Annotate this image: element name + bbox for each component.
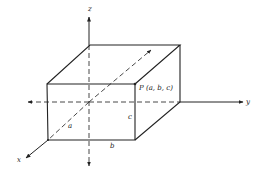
box-diagram: z y x P (a, b, c) a b c <box>0 0 264 181</box>
z-axis-label: z <box>88 6 92 13</box>
rectangular-box <box>47 45 180 140</box>
x-axis <box>26 50 151 158</box>
x-axis-label: x <box>17 157 21 164</box>
dimension-c-label: c <box>128 114 132 121</box>
dimension-a-label: a <box>68 123 72 130</box>
diagram-drawing <box>0 0 264 181</box>
point-p-marker <box>134 83 137 86</box>
corner-marker <box>47 139 49 141</box>
dimension-b-label: b <box>110 143 114 150</box>
point-p-label: P (a, b, c) <box>139 85 173 92</box>
y-axis-label: y <box>246 99 250 106</box>
